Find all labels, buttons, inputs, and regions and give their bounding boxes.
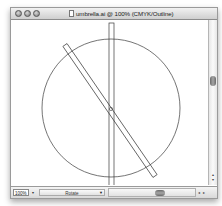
horizontal-scrollbar[interactable] [108, 188, 196, 197]
title-bar[interactable]: umbrella.ai @ 100% (CMYK/Outline) [11, 8, 217, 20]
artwork [11, 20, 207, 185]
zoom-button[interactable] [33, 10, 40, 17]
scroll-down-arrow-icon[interactable]: ▾ [211, 178, 215, 182]
window-title: umbrella.ai @ 100% (CMYK/Outline) [76, 10, 174, 17]
horizontal-scroll-thumb[interactable] [155, 190, 165, 196]
minimize-button[interactable] [24, 10, 31, 17]
zoom-level-field[interactable]: 100% [13, 189, 29, 196]
vertical-bar-shape[interactable] [109, 23, 114, 185]
artboard-canvas[interactable] [11, 20, 207, 185]
close-button[interactable] [15, 10, 22, 17]
status-menu-chevron-down-icon[interactable]: ▼ [99, 189, 105, 196]
status-bar: 100% ▾ Rotate ▼ ◂ ▸ [11, 186, 217, 198]
vertical-scrollbar[interactable]: ▴ ▾ [208, 20, 217, 185]
document-window: umbrella.ai @ 100% (CMYK/Outline) ▴ ▾ 10… [10, 7, 218, 199]
document-proxy-icon[interactable] [69, 10, 74, 17]
horizontal-scroll-arrows-icon[interactable]: ◂ ▸ [198, 189, 214, 196]
vertical-scroll-thumb[interactable] [210, 76, 216, 86]
title-group: umbrella.ai @ 100% (CMYK/Outline) [69, 9, 174, 18]
zoom-menu-chevron-down-icon[interactable]: ▾ [30, 189, 36, 196]
status-menu[interactable]: Rotate [39, 189, 105, 196]
